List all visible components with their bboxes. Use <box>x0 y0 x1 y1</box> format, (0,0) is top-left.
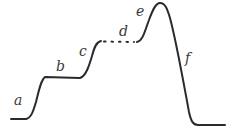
label-f: f <box>184 50 193 66</box>
label-c: c <box>79 43 87 59</box>
curve-solid-left <box>11 41 101 119</box>
curve-dotted-d <box>104 42 134 43</box>
label-e: e <box>136 3 144 19</box>
diagram-canvas: a b c d e f <box>0 0 239 134</box>
curve-solid-right <box>137 3 225 125</box>
label-d: d <box>119 23 128 39</box>
label-a: a <box>14 92 22 108</box>
label-b: b <box>56 58 65 74</box>
